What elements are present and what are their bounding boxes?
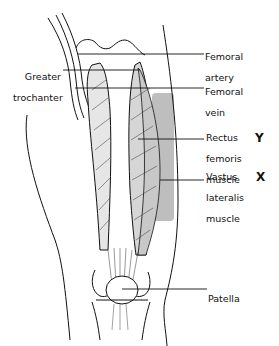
label-line: Femoral (205, 87, 243, 98)
label-line: vein (205, 108, 243, 119)
label-line: Patella (208, 294, 240, 305)
label-line: lateralis (206, 193, 244, 204)
label-line: trochanter (13, 93, 61, 104)
patellar-ligament (112, 304, 128, 330)
label-line: Femoral (205, 52, 243, 63)
label-femoral-vein: Femoral vein (205, 76, 243, 129)
tibia (92, 300, 150, 340)
label-greater-trochanter: Greater trochanter (13, 61, 61, 114)
label-line: Rectus (206, 133, 242, 144)
label-line: muscle (206, 214, 244, 225)
label-patella: Patella (208, 283, 240, 315)
leg-outline-left (26, 115, 70, 340)
label-line: Greater (13, 72, 61, 83)
marker-x: X (256, 170, 265, 184)
label-vastus-lateralis: Vastus lateralis muscle (206, 161, 244, 235)
marker-y: Y (255, 131, 264, 145)
label-line: Vastus (206, 172, 244, 183)
hip-contour (76, 40, 145, 55)
